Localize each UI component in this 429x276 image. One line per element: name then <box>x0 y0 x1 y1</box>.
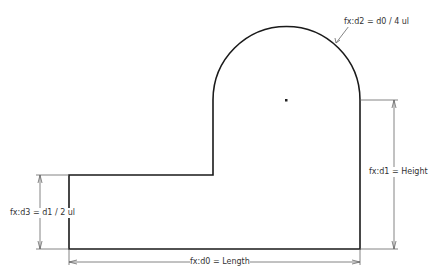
dimension-d2[interactable] <box>335 26 349 43</box>
arc-center-point[interactable] <box>285 99 288 102</box>
dimension-d0-label[interactable]: fx:d0 = Length <box>190 257 250 267</box>
dimension-d1-label[interactable]: fx:d1 = Height <box>369 167 428 177</box>
sketch-profile[interactable] <box>69 27 360 250</box>
dimension-d3-label[interactable]: fx:d3 = d1 / 2 ul <box>10 208 75 218</box>
sketch-canvas <box>0 0 429 276</box>
dimension-d2-label[interactable]: fx:d2 = d0 / 4 ul <box>344 17 409 27</box>
